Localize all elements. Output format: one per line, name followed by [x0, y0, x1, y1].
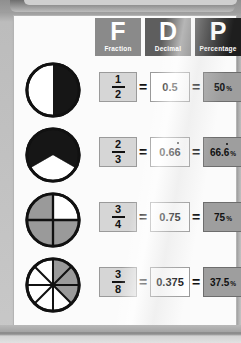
decimal-value: 0.375	[156, 276, 184, 288]
header-percentage-label: Percentage	[199, 45, 236, 53]
fraction-denominator: 8	[115, 283, 121, 295]
decimal-value-box: 0.75	[150, 202, 190, 232]
table-row: 2 3 = 0.66 = 66.6%	[14, 123, 236, 188]
header-percentage: P Percentage	[195, 18, 241, 56]
header-percentage-letter: P	[210, 19, 227, 44]
header-decimal-label: Decimal	[155, 45, 181, 53]
recurring-dot-icon	[226, 143, 228, 145]
fraction-denominator: 3	[115, 153, 121, 165]
fraction-value-box: 1 2	[99, 72, 137, 102]
decimal-value: 0.75	[159, 211, 180, 223]
header-fraction-label: Fraction	[104, 45, 131, 53]
fraction-numerator: 2	[115, 139, 121, 151]
percent-sign: %	[230, 150, 236, 157]
percentage-value-box: 75 %	[203, 202, 241, 232]
equals-sign: =	[137, 137, 149, 167]
decimal-value-box: 0.375	[150, 267, 190, 297]
fraction-glyph: 3 4	[112, 204, 125, 230]
recurring-digit-value: 6	[175, 146, 181, 158]
header-decimal: D Decimal	[145, 18, 191, 56]
equals-sign: =	[137, 267, 149, 297]
half-circle-diagram	[24, 61, 82, 119]
fraction-numerator: 3	[115, 269, 121, 281]
equals-sign: =	[137, 202, 149, 232]
fraction-diagram-cell	[16, 58, 92, 123]
percentage-value: 50	[214, 82, 225, 93]
percentage-value-prefix: 66.	[210, 147, 224, 158]
percentage-value: 37.5	[210, 277, 229, 288]
header-decimal-letter: D	[159, 19, 177, 44]
fraction-glyph: 2 3	[112, 139, 125, 165]
decimal-value: 0.5	[162, 81, 177, 93]
fraction-denominator: 2	[115, 88, 121, 100]
header-fraction: F Fraction	[95, 18, 141, 56]
equals-sign: =	[190, 267, 202, 297]
fraction-diagram-cell	[16, 253, 92, 318]
decimal-value-box: 0.5	[150, 72, 190, 102]
table-row: 3 4 = 0.75 = 75 %	[14, 188, 236, 253]
fraction-glyph: 1 2	[112, 74, 125, 100]
fraction-value-box: 3 4	[99, 202, 137, 232]
equals-sign: =	[190, 137, 202, 167]
fdp-conversion-table: F Fraction D Decimal P Percentage 1	[14, 16, 236, 325]
recurring-digit-value: 6	[224, 147, 230, 158]
two-thirds-circle-diagram	[24, 126, 82, 184]
fraction-numerator: 3	[115, 204, 121, 216]
decimal-value-box: 0.66	[150, 137, 190, 167]
recurring-dot-icon	[177, 142, 179, 144]
table-row: 1 2 = 0.5 = 50 %	[14, 58, 236, 123]
three-quarters-circle-diagram	[24, 191, 82, 249]
recurring-digit: 6	[224, 147, 230, 158]
fraction-value-box: 3 8	[99, 267, 137, 297]
three-eighths-circle-diagram	[24, 256, 82, 314]
recurring-digit: 6	[175, 146, 181, 158]
percentage-value: 75	[214, 212, 225, 223]
decimal-value-prefix: 0.6	[159, 146, 174, 158]
equals-sign: =	[137, 72, 149, 102]
equals-sign: =	[190, 202, 202, 232]
equals-sign: =	[190, 72, 202, 102]
poster-top-frame	[10, 0, 235, 12]
table-row: 3 8 = 0.375 = 37.5 %	[14, 253, 236, 318]
poster-top-frame-highlight	[24, 0, 237, 5]
poster-bottom-edge	[0, 325, 241, 343]
fraction-value-box: 2 3	[99, 137, 137, 167]
percentage-value-box: 66.6%	[203, 137, 241, 167]
poster-bottom-line	[0, 332, 241, 334]
percent-sign: %	[226, 85, 232, 92]
percent-sign: %	[226, 215, 232, 222]
fraction-diagram-cell	[16, 188, 92, 253]
percentage-value-box: 50 %	[203, 72, 241, 102]
fraction-diagram-cell	[16, 123, 92, 188]
fraction-denominator: 4	[115, 218, 121, 230]
percent-sign: %	[230, 280, 236, 287]
poster-background: F Fraction D Decimal P Percentage 1	[0, 0, 241, 343]
fraction-numerator: 1	[115, 74, 121, 86]
header-fraction-letter: F	[110, 19, 125, 44]
fraction-glyph: 3 8	[112, 269, 125, 295]
percentage-value-box: 37.5 %	[203, 267, 241, 297]
